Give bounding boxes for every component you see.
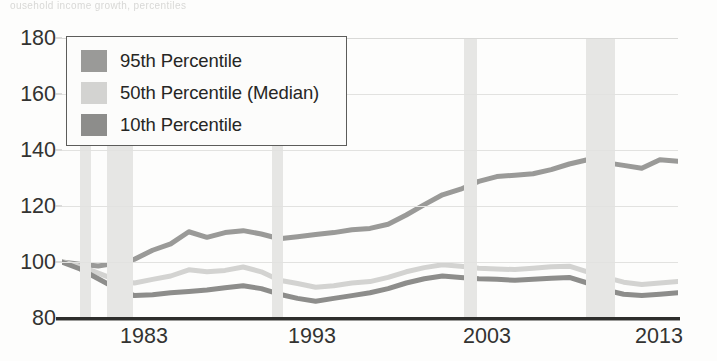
y-tick-mark-160 xyxy=(55,94,62,95)
y-tick-label-180: 180 xyxy=(8,26,56,51)
gridline-120 xyxy=(62,206,678,207)
clipped-heading-text: ousehold income growth, percentiles xyxy=(0,0,717,14)
legend-label-95th: 95th Percentile xyxy=(120,50,242,72)
recession-band-3 xyxy=(464,38,477,318)
recession-band-4 xyxy=(586,38,615,318)
chart-legend: 95th Percentile 50th Percentile (Median)… xyxy=(66,36,347,146)
x-tick-label-1983: 1983 xyxy=(120,324,168,349)
legend-label-50th: 50th Percentile (Median) xyxy=(120,82,319,104)
legend-item-50th: 50th Percentile (Median) xyxy=(81,77,346,109)
y-tick-label-80: 80 xyxy=(8,306,56,331)
y-tick-label-100: 100 xyxy=(8,250,56,275)
legend-label-10th: 10th Percentile xyxy=(120,114,242,136)
legend-item-95th: 95th Percentile xyxy=(81,45,346,77)
chart-page: ousehold income growth, percentiles 180 … xyxy=(0,0,717,361)
y-tick-mark-180 xyxy=(55,38,62,39)
y-tick-label-120: 120 xyxy=(8,194,56,219)
x-tick-label-1993: 1993 xyxy=(288,324,336,349)
legend-swatch-10th-icon xyxy=(81,114,107,136)
y-tick-label-140: 140 xyxy=(8,138,56,163)
legend-swatch-95th-icon xyxy=(81,50,107,72)
y-tick-mark-140 xyxy=(55,150,62,151)
legend-swatch-50th-icon xyxy=(81,82,107,104)
gridline-100 xyxy=(62,262,678,263)
gridline-140 xyxy=(62,150,678,151)
y-tick-mark-120 xyxy=(55,206,62,207)
x-tick-label-2013: 2013 xyxy=(635,324,683,349)
x-tick-label-2003: 2003 xyxy=(463,324,511,349)
legend-item-10th: 10th Percentile xyxy=(81,109,346,141)
y-tick-mark-100 xyxy=(55,262,62,263)
y-tick-label-160: 160 xyxy=(8,82,56,107)
x-axis-line-shadow xyxy=(56,320,680,321)
